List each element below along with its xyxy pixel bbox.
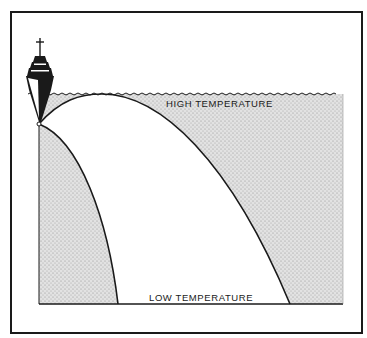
high-temperature-label: HIGH TEMPERATURE xyxy=(166,98,273,109)
sonar-refraction-diagram: HIGH TEMPERATURE LOW TEMPERATURE xyxy=(0,0,367,338)
low-temperature-label: LOW TEMPERATURE xyxy=(149,292,253,303)
